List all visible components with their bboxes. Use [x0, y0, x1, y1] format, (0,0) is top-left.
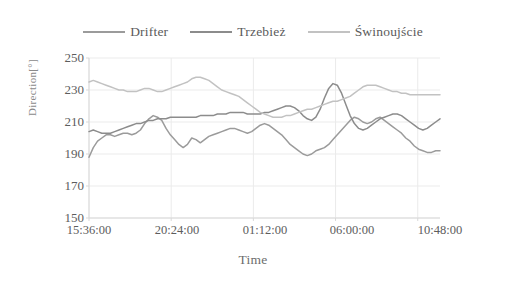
- x-tick-label: 06:00:00: [330, 223, 374, 238]
- x-tick-label: 15:36:00: [67, 223, 111, 238]
- series-line-swinoujscie: [89, 77, 440, 117]
- plot-area: [0, 0, 506, 284]
- x-tick-label: 20:24:00: [155, 223, 199, 238]
- chart-figure: Drifter Trzebież Świnoujście Direction[°…: [0, 0, 506, 284]
- x-axis-title: Time: [0, 252, 506, 268]
- x-tick-label: 10:48:00: [418, 223, 462, 238]
- x-tick-label: 01:12:00: [243, 223, 287, 238]
- series-line-trzebiez: [89, 84, 440, 134]
